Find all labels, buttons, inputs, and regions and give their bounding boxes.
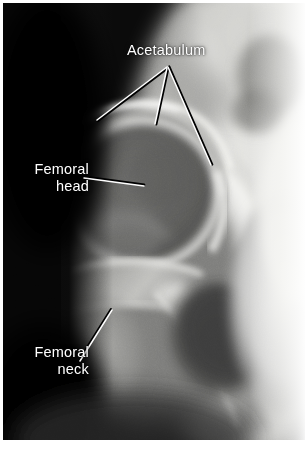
- label-femoral-head-line-1: Femoral: [19, 161, 89, 178]
- label-femoral-neck-line-2: neck: [19, 361, 89, 378]
- label-femoral-neck-line-1: Femoral: [19, 344, 89, 361]
- label-acetabulum: Acetabulum: [127, 42, 206, 59]
- label-acetabulum-line-1: Acetabulum: [127, 42, 206, 59]
- radiograph-figure: Acetabulum Femoral head Femoral neck: [0, 0, 308, 455]
- label-femoral-head-line-2: head: [19, 178, 89, 195]
- label-femoral-neck: Femoral neck: [19, 344, 89, 378]
- label-femoral-head: Femoral head: [19, 161, 89, 195]
